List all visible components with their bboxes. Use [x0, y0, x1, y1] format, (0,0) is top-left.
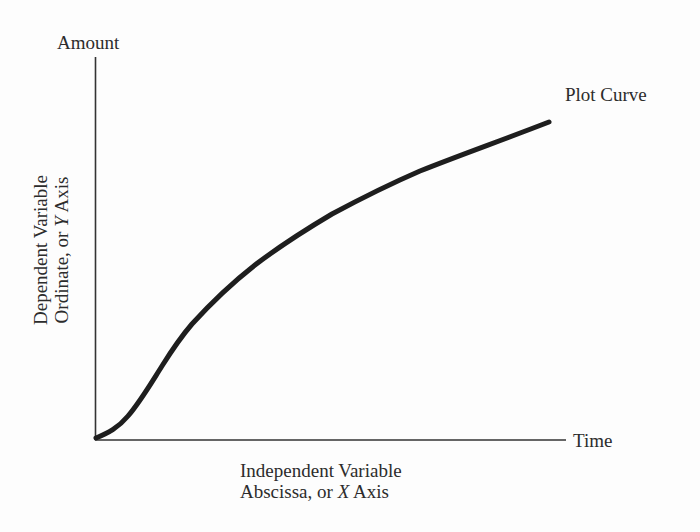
- y-axis-variable: Y: [51, 216, 72, 227]
- x-axis-title-line2: Abscissa, or X Axis: [240, 481, 402, 502]
- y-axis-title-line1: Dependent Variable: [30, 145, 51, 355]
- plot-curve-label: Plot Curve: [565, 85, 647, 105]
- y-axis-title-suffix: Axis: [51, 177, 72, 217]
- x-axis-end-label: Time: [573, 431, 612, 451]
- y-axis-title: Dependent Variable Ordinate, or Y Axis: [30, 145, 72, 355]
- x-axis-variable: X: [338, 481, 350, 502]
- plot-graphic: [0, 0, 700, 532]
- plot-curve-line: [96, 122, 549, 438]
- y-axis-title-prefix: Ordinate, or: [51, 227, 72, 324]
- x-axis-title-suffix: Axis: [349, 481, 389, 502]
- y-axis-top-label: Amount: [57, 33, 119, 53]
- x-axis-title: Independent Variable Abscissa, or X Axis: [240, 460, 402, 502]
- x-axis-title-prefix: Abscissa, or: [240, 481, 338, 502]
- y-axis-title-line2: Ordinate, or Y Axis: [51, 145, 72, 355]
- x-axis-title-line1: Independent Variable: [240, 460, 402, 481]
- plot-diagram: Amount Plot Curve Time Dependent Variabl…: [0, 0, 700, 532]
